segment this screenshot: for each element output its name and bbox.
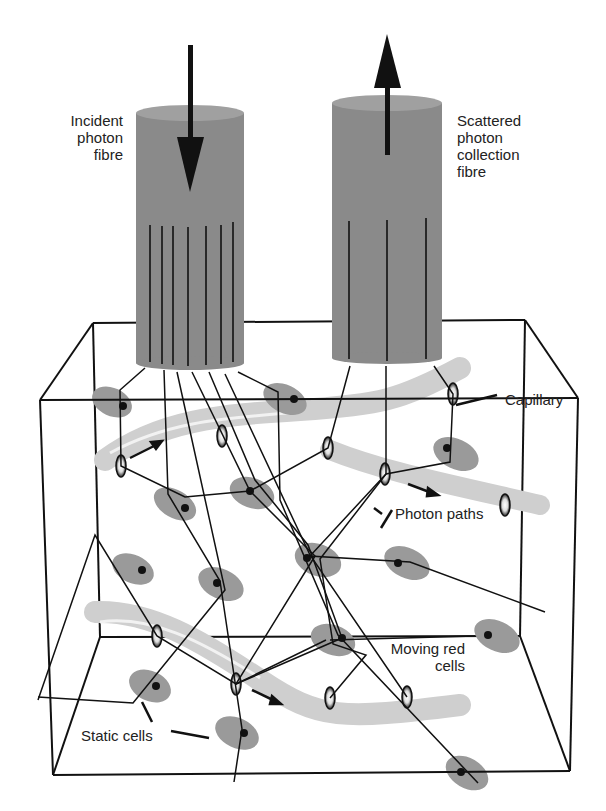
label-collection-line-3: collection: [457, 146, 521, 163]
photon-paths: [38, 366, 545, 783]
label-static-cells: Static cells: [81, 727, 153, 744]
label-collection-line-2: photon: [457, 129, 521, 146]
label-moving-red-cells: Moving red cells: [370, 640, 465, 674]
label-photon-paths: Photon paths: [395, 505, 483, 522]
label-incident-line-3: fibre: [50, 146, 123, 163]
capillary-vessels: [95, 368, 540, 714]
label-collection-line-1: Scattered: [457, 112, 521, 129]
diagram-canvas: Incident photon fibre Scattered photon c…: [0, 0, 606, 811]
label-collection-fibre: Scattered photon collection fibre: [457, 112, 521, 180]
label-incident-fibre: Incident photon fibre: [50, 112, 123, 163]
label-moving-line-1: Moving red: [370, 640, 465, 657]
label-capillary: Capillary: [505, 391, 563, 408]
label-incident-line-1: Incident: [50, 112, 123, 129]
label-collection-line-4: fibre: [457, 163, 521, 180]
label-incident-line-2: photon: [50, 129, 123, 146]
label-moving-line-2: cells: [370, 657, 465, 674]
